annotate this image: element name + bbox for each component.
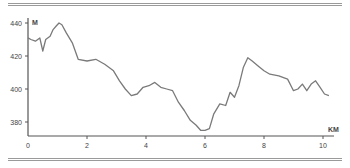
y-tick-label: 440 (10, 20, 22, 27)
y-tick-label: 400 (10, 86, 22, 93)
x-tick-label: 2 (85, 142, 89, 149)
x-tick-label: 0 (26, 142, 30, 149)
x-axis-unit-label: KM (328, 126, 339, 133)
y-tick-label: 380 (10, 119, 22, 126)
axes (28, 18, 334, 136)
y-axis-unit-label: M (32, 19, 38, 26)
ticks (25, 23, 323, 139)
elevation-line (28, 23, 329, 130)
x-tick-label: 10 (319, 142, 327, 149)
elevation-chart: 3804004204400246810 M KM (0, 0, 350, 168)
x-tick-label: 4 (144, 142, 148, 149)
x-tick-label: 6 (203, 142, 207, 149)
tick-labels: 3804004204400246810 (10, 20, 327, 150)
x-tick-label: 8 (262, 142, 266, 149)
y-tick-label: 420 (10, 53, 22, 60)
